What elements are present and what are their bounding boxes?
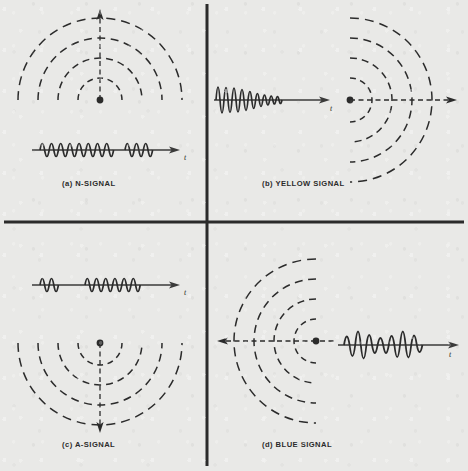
- wavefront-diagram-c: [18, 340, 182, 433]
- waveform-plot-c: t: [32, 279, 187, 298]
- quadrant-a-n-signal: t (a) N-SIGNAL: [18, 9, 187, 188]
- caption-c: (c) A-SIGNAL: [62, 440, 115, 449]
- signal-quadrant-figure: t (a) N-SIGNAL t: [0, 0, 468, 471]
- waveform-plot-d: t: [338, 332, 459, 360]
- time-axis-label-b: t: [330, 104, 333, 113]
- n-signal-waveform-burst-2: [125, 144, 153, 157]
- time-axis-label-a: t: [184, 153, 187, 162]
- source-dot-b: [347, 97, 354, 104]
- source-dot-d: [313, 338, 320, 345]
- quadrant-d-blue-signal: t (d) BLUE SIGNAL: [217, 259, 459, 449]
- waveform-plot-b: t: [214, 87, 333, 113]
- wavefront-diagram-d: [217, 259, 336, 423]
- source-dot-a: [97, 97, 104, 104]
- caption-d: (d) BLUE SIGNAL: [262, 440, 332, 449]
- blue-signal-waveform: [344, 332, 422, 359]
- quadrant-b-yellow-signal: t (b) YELLOW SIGNAL: [214, 18, 457, 188]
- time-axis-label-d: t: [449, 350, 452, 359]
- source-dot-c: [97, 340, 104, 347]
- quadrant-c-a-signal: t (c) A-SIGNAL: [18, 279, 187, 450]
- wavefront-diagram-b: [347, 18, 457, 182]
- figure-root: t (a) N-SIGNAL t: [0, 0, 468, 471]
- wavefront-diagram-a: [18, 9, 182, 103]
- waveform-plot-a: t: [32, 144, 187, 163]
- quadrant-divider-cross: [4, 4, 464, 466]
- caption-a: (a) N-SIGNAL: [62, 179, 116, 188]
- time-axis-label-c: t: [184, 288, 187, 297]
- caption-b: (b) YELLOW SIGNAL: [262, 179, 345, 188]
